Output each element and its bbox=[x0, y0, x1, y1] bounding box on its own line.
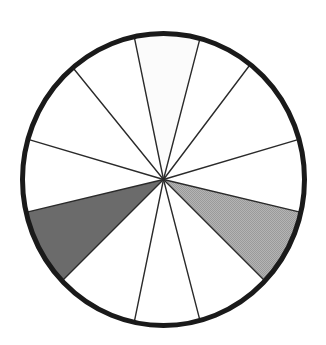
pie-chart-svg bbox=[0, 0, 326, 345]
pie-diagram-container bbox=[0, 0, 326, 345]
